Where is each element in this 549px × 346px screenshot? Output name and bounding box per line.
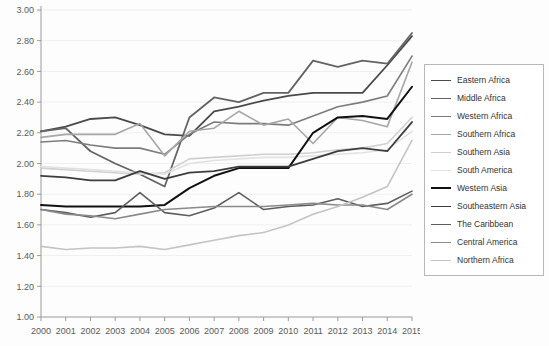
x-axis-tick-label: 2008 [229,326,249,336]
x-axis-tick-label: 2013 [353,326,373,336]
legend-item-label: Southeastern Asia [457,202,526,211]
legend-item-label: Northern Africa [457,256,514,265]
legend-item-label: Southern Africa [457,130,515,139]
legend-item[interactable]: Southeastern Asia [431,197,539,215]
x-axis-tick-label: 2007 [204,326,224,336]
x-axis-tick-label: 2002 [80,326,100,336]
legend-item[interactable]: Eastern Africa [431,71,539,89]
legend-color-swatch [431,206,451,207]
y-axis-tick-label: 2.00 [16,159,34,169]
legend-item-label: Western Asia [457,184,507,193]
y-axis-tick-label: 1.00 [16,312,34,322]
legend-item[interactable]: Western Asia [431,179,539,197]
series-line [41,56,412,154]
legend-item-label: The Caribbean [457,220,513,229]
x-axis-tick-label: 2011 [303,326,322,336]
legend-item-label: Western Africa [457,112,512,121]
y-axis-tick-label: 3.00 [16,5,34,15]
y-axis-tick-label: 1.20 [16,282,34,292]
legend-item[interactable]: The Caribbean [431,215,539,233]
legend-item[interactable]: Northern Africa [431,251,539,269]
legend-color-swatch [431,152,451,153]
legend-color-swatch [431,98,451,99]
y-axis-tick-label: 1.80 [16,189,34,199]
legend-color-swatch [431,134,451,135]
legend-item-label: Central America [457,238,517,247]
x-axis-tick-label: 2010 [278,326,298,336]
legend-item-label: Southern Asia [457,148,510,157]
legend-item-label: South America [457,166,512,175]
x-axis-tick-label: 2012 [328,326,348,336]
x-axis-tick-label: 2000 [31,326,51,336]
y-axis-labels-group: 1.001.201.401.601.802.002.202.402.602.80… [16,5,34,322]
x-axis-ticks-group [41,317,412,321]
x-axis-tick-label: 2006 [179,326,199,336]
legend-color-swatch [431,187,451,189]
x-axis-tick-label: 2014 [377,326,397,336]
chart-canvas: 1.001.201.401.601.802.002.202.402.602.80… [0,0,420,346]
x-axis-tick-label: 2004 [130,326,150,336]
line-chart: 1.001.201.401.601.802.002.202.402.602.80… [0,0,420,346]
legend-color-swatch [431,260,451,261]
legend-color-swatch [431,224,451,225]
y-axis-tick-label: 2.60 [16,67,34,77]
legend-item[interactable]: Middle Africa [431,89,539,107]
legend-item[interactable]: Southern Asia [431,143,539,161]
legend-item[interactable]: South America [431,161,539,179]
series-line [41,36,412,136]
chart-page: 1.001.201.401.601.802.002.202.402.602.80… [0,0,549,346]
legend-item-label: Eastern Africa [457,76,510,85]
x-axis-labels-group: 2000200120022003200420052006200720082009… [31,326,420,336]
x-axis-tick-label: 2015 [402,326,420,336]
y-axis-tick-label: 1.40 [16,251,34,261]
series-lines-group [41,33,412,249]
y-axis-tick-label: 2.80 [16,36,34,46]
y-axis-tick-label: 2.40 [16,97,34,107]
y-axis-tick-label: 1.60 [16,220,34,230]
x-axis-tick-label: 2005 [155,326,175,336]
x-axis-tick-label: 2003 [105,326,125,336]
chart-legend: Eastern AfricaMiddle AfricaWestern Afric… [424,64,544,276]
series-line [41,131,412,174]
legend-item[interactable]: Western Africa [431,107,539,125]
legend-color-swatch [431,170,451,171]
legend-item[interactable]: Central America [431,233,539,251]
x-axis-tick-label: 2001 [56,326,76,336]
legend-color-swatch [431,80,451,81]
legend-color-swatch [431,116,451,117]
legend-item-label: Middle Africa [457,94,506,103]
x-axis-tick-label: 2009 [254,326,274,336]
y-axis-tick-label: 2.20 [16,128,34,138]
y-axis-ticks-group [37,10,41,317]
legend-item[interactable]: Southern Africa [431,125,539,143]
legend-color-swatch [431,242,451,243]
